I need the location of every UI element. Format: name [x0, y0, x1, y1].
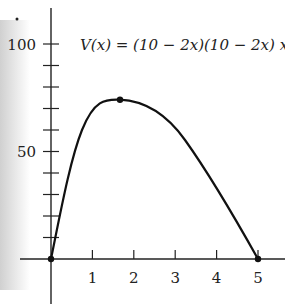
volume-curve-smooth: [51, 100, 258, 259]
volume-chart: 1 2 3 4 5 100 50 V(x) = (10 − 2x)(10 − 2…: [0, 0, 285, 304]
origin-point: [48, 256, 54, 262]
x-tick-label-1: 1: [88, 269, 98, 287]
x-tick-label-2: 2: [129, 269, 139, 287]
x-tick-label-4: 4: [212, 269, 222, 287]
y-tick-label-50: 50: [17, 143, 36, 161]
maximum-point: [117, 97, 123, 103]
root-point: [255, 256, 261, 262]
equation-label: V(x) = (10 − 2x)(10 − 2x) x: [80, 36, 285, 54]
x-ticks: [92, 250, 258, 259]
x-tick-label-5: 5: [253, 269, 263, 287]
stray-mark: [16, 18, 19, 21]
x-tick-label-3: 3: [170, 269, 180, 287]
y-tick-label-100: 100: [7, 36, 36, 54]
